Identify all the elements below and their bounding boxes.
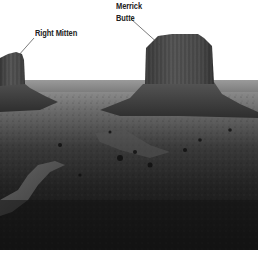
right-mitten-label: Right Mitten: [35, 28, 77, 39]
merrick-butte-label-line1: Merrick: [116, 1, 142, 12]
merrick-butte-label-line2: Butte: [116, 13, 135, 24]
